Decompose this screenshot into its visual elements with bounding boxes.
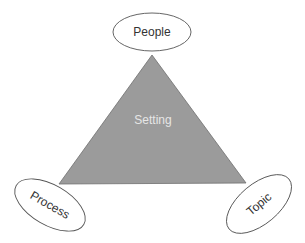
- people-label: People: [133, 25, 171, 39]
- diagram-canvas: Setting People Process Topic: [0, 0, 305, 243]
- people-node: People: [113, 13, 191, 51]
- diagram-svg: Setting People Process Topic: [0, 0, 305, 243]
- setting-label: Setting: [134, 113, 171, 127]
